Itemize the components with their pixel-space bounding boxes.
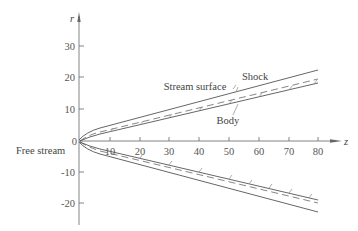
r-axis-ticks xyxy=(79,46,84,203)
z-tick-80: 80 xyxy=(313,146,324,157)
stream-surface-leader xyxy=(233,85,236,89)
r-tick-neg20: -20 xyxy=(61,198,75,209)
flow-diagram: r z 30 20 10 0 -10 -20 10 20 30 40 50 60… xyxy=(0,0,358,231)
r-axis-arrow-icon xyxy=(77,12,80,22)
z-tick-50: 50 xyxy=(224,146,235,157)
body-lower-hatching xyxy=(140,154,312,198)
z-axis-label: z xyxy=(343,136,348,147)
z-axis-ticks xyxy=(110,137,318,141)
z-tick-40: 40 xyxy=(194,146,205,157)
r-tick-neg10: -10 xyxy=(61,167,75,178)
z-tick-30: 30 xyxy=(164,146,175,157)
free-stream-label: Free stream xyxy=(16,145,65,156)
z-axis-arrow-icon xyxy=(330,139,342,142)
r-tick-30: 30 xyxy=(65,41,76,52)
z-tick-60: 60 xyxy=(254,146,265,157)
body-label: Body xyxy=(217,115,241,126)
z-tick-20: 20 xyxy=(135,146,146,157)
z-tick-70: 70 xyxy=(284,146,295,157)
body-leader xyxy=(233,104,238,115)
r-tick-20: 20 xyxy=(65,72,76,83)
r-tick-0: 0 xyxy=(72,136,77,147)
r-axis-label: r xyxy=(70,13,75,24)
stream-surface-label: Stream surface xyxy=(164,81,227,92)
shock-label: Shock xyxy=(242,71,269,82)
r-tick-10: 10 xyxy=(65,104,76,115)
